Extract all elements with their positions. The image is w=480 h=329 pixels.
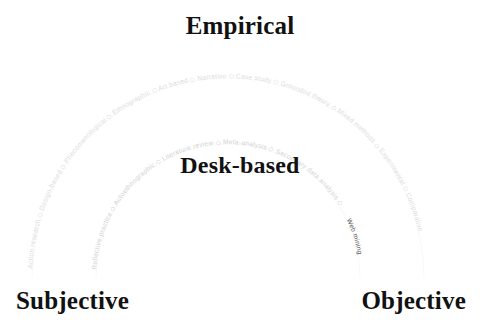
desk-based-heading: Desk-based [0, 152, 480, 179]
web-mining-label-text: Web mining [346, 217, 364, 255]
objective-axis-label: Objective [361, 287, 466, 315]
web-mining-textpath: Web mining [346, 217, 364, 255]
subjective-axis-label: Subjective [16, 287, 129, 315]
empirical-heading: Empirical [0, 12, 480, 40]
diagram-canvas: Action research ◇ Design-based ◇ Phenome… [0, 0, 480, 329]
